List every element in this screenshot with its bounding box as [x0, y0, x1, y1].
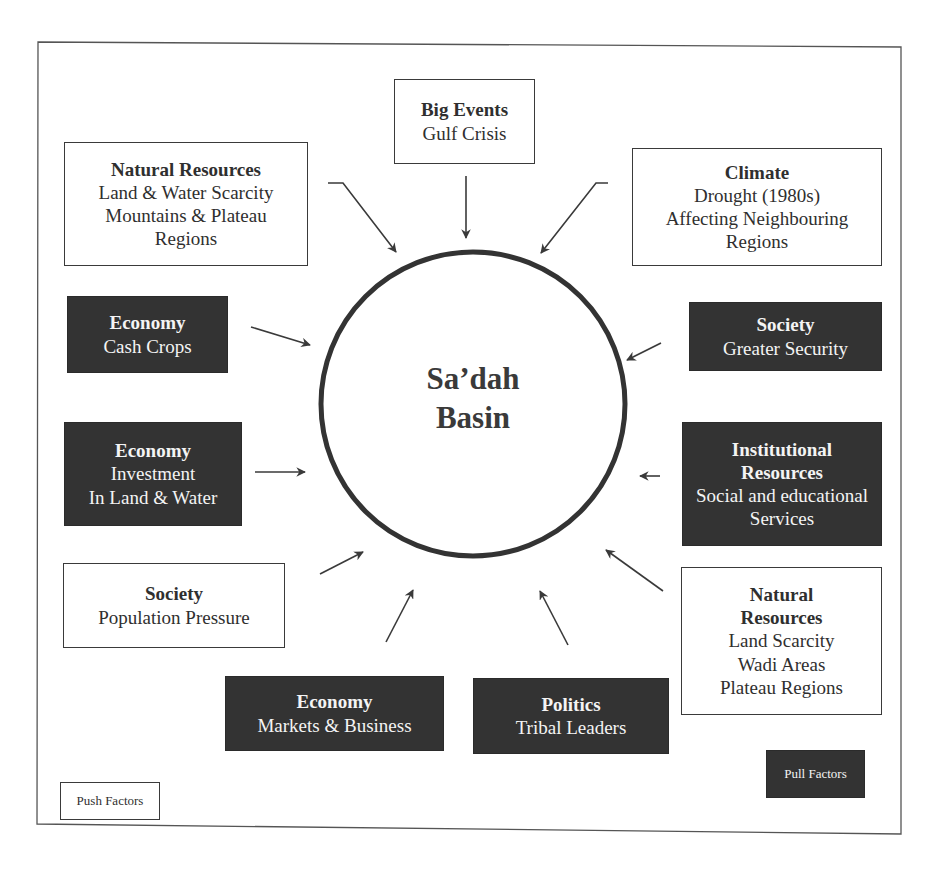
factor-line: Affecting Neighbouring [666, 207, 849, 230]
factor-title: Natural Resources [111, 158, 261, 181]
factor-big-events: Big Events Gulf Crisis [394, 79, 535, 164]
factor-economy-markets: Economy Markets & Business [225, 676, 444, 751]
factor-line: Social and educational [696, 484, 868, 507]
factor-line: Drought (1980s) [694, 184, 820, 207]
factor-climate: Climate Drought (1980s) Affecting Neighb… [632, 148, 882, 266]
factor-line: Investment [111, 462, 195, 485]
diagram-canvas: Sa’dah Basin Natural Resources Land & Wa… [0, 0, 942, 869]
factor-politics: Politics Tribal Leaders [473, 678, 669, 754]
factor-institutional-resources: Institutional Resources Social and educa… [682, 422, 882, 546]
factor-society-security: Society Greater Security [689, 302, 882, 371]
legend-pull-factors: Pull Factors [766, 750, 865, 798]
factor-line: Mountains & Plateau [105, 204, 266, 227]
factor-line: Wadi Areas [738, 653, 826, 676]
factor-line: Services [750, 507, 814, 530]
factor-line: Land & Water Scarcity [99, 181, 274, 204]
factor-title: Climate [725, 161, 789, 184]
arrow-economy-markets [386, 590, 413, 642]
arrow-natural-resources-tl [328, 183, 396, 252]
legend-push-label: Push Factors [77, 793, 144, 809]
factor-line: Population Pressure [98, 606, 249, 629]
arrow-natural-resources-br [606, 550, 663, 591]
arrow-politics [540, 591, 568, 645]
factor-line: Land Scarcity [728, 629, 834, 652]
center-label-line2: Basin [373, 399, 573, 438]
factor-line: Regions [155, 227, 217, 250]
factor-natural-resources-tl: Natural Resources Land & Water Scarcity … [64, 142, 308, 266]
center-label-line1: Sa’dah [373, 360, 573, 399]
factor-line: Gulf Crisis [423, 122, 507, 145]
factor-title: Economy [115, 439, 191, 462]
legend-pull-label: Pull Factors [784, 766, 846, 782]
factor-title: Society [145, 582, 203, 605]
arrow-society-population [320, 552, 363, 574]
factor-line: Tribal Leaders [516, 716, 627, 739]
arrow-society-security [627, 343, 661, 360]
factor-economy-cash-crops: Economy Cash Crops [67, 296, 228, 373]
factor-title: Economy [297, 690, 373, 713]
factor-title: Resources [741, 461, 823, 484]
arrow-climate [541, 183, 608, 253]
legend-push-factors: Push Factors [60, 782, 160, 820]
factor-title: Society [756, 313, 814, 336]
factor-society-population: Society Population Pressure [63, 563, 285, 648]
factor-line: Plateau Regions [720, 676, 843, 699]
factor-natural-resources-br: Natural Resources Land Scarcity Wadi Are… [681, 567, 882, 715]
factor-line: Markets & Business [257, 714, 411, 737]
factor-title: Natural [750, 583, 813, 606]
factor-title: Big Events [421, 98, 508, 121]
factor-line: Greater Security [723, 337, 848, 360]
factor-economy-investment: Economy Investment In Land & Water [64, 422, 242, 526]
factor-title: Economy [110, 311, 186, 334]
factor-line: Regions [726, 230, 788, 253]
factor-title: Politics [541, 693, 600, 716]
factor-title: Resources [741, 606, 823, 629]
center-label: Sa’dah Basin [373, 360, 573, 438]
factor-line: In Land & Water [89, 486, 217, 509]
arrow-economy-cash-crops [251, 327, 310, 345]
factor-line: Cash Crops [103, 335, 191, 358]
factor-title: Institutional [732, 438, 832, 461]
